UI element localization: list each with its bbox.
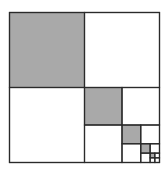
empty-square-bottom-left-level-4 <box>141 153 150 162</box>
smallest-square <box>155 158 160 163</box>
shaded-square-level-1 <box>10 13 85 88</box>
empty-square-top-right-level-5 <box>155 153 160 158</box>
empty-square-bottom-left-level-1 <box>10 88 85 163</box>
empty-square-top-right-level-4 <box>150 144 159 153</box>
empty-square-bottom-left-level-3 <box>122 144 141 163</box>
empty-square-top-right-level-2 <box>122 88 160 126</box>
shaded-square-level-4 <box>141 144 150 153</box>
shaded-square-level-2 <box>85 88 123 126</box>
empty-square-top-right-level-1 <box>85 13 160 88</box>
empty-square-bottom-left-level-5 <box>150 158 155 163</box>
shaded-squares <box>10 13 155 158</box>
shaded-square-level-3 <box>122 125 141 144</box>
shaded-square-level-5 <box>150 153 155 158</box>
nested-squares-diagram <box>0 0 166 175</box>
empty-square-bottom-left-level-2 <box>85 125 123 163</box>
empty-square-top-right-level-3 <box>141 125 160 144</box>
